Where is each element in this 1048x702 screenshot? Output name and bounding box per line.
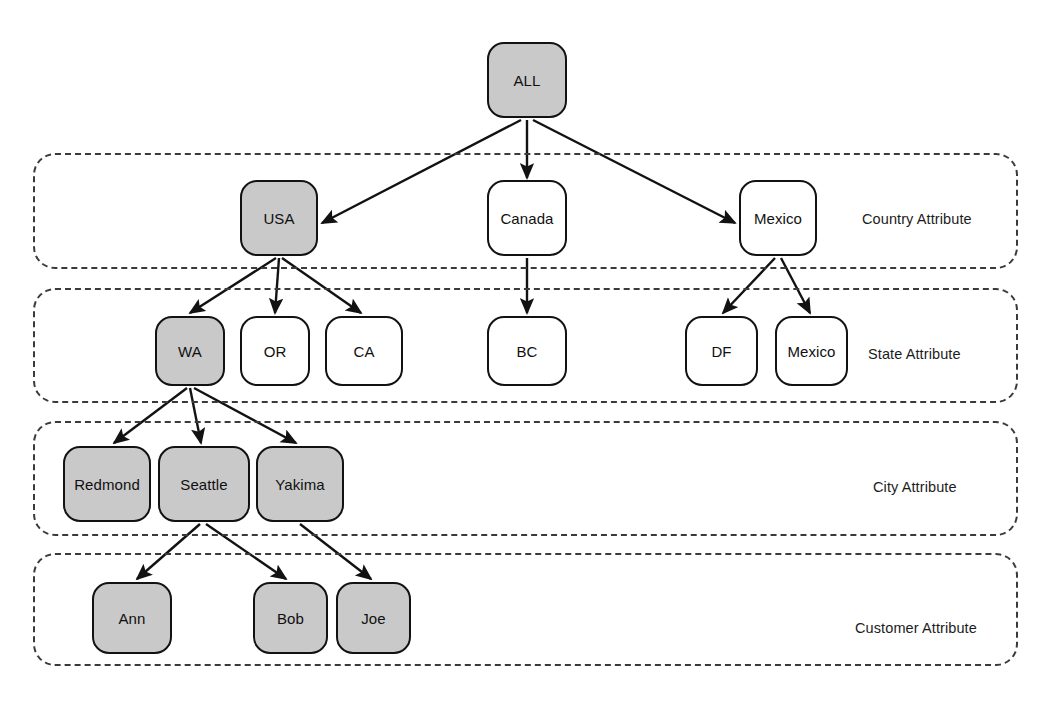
- tier-label-state: State Attribute: [868, 346, 961, 362]
- node-mexico-state[interactable]: Mexico: [775, 316, 848, 386]
- tier-label-city: City Attribute: [873, 479, 957, 495]
- node-mexico[interactable]: Mexico: [739, 180, 817, 256]
- tier-label-country: Country Attribute: [862, 211, 972, 227]
- node-bc[interactable]: BC: [487, 316, 567, 386]
- node-joe[interactable]: Joe: [336, 582, 411, 654]
- node-canada[interactable]: Canada: [487, 180, 567, 256]
- node-wa[interactable]: WA: [155, 316, 225, 386]
- node-df[interactable]: DF: [685, 316, 758, 386]
- hierarchy-diagram: Country AttributeState AttributeCity Att…: [0, 0, 1048, 702]
- node-redmond[interactable]: Redmond: [63, 446, 151, 522]
- node-ca[interactable]: CA: [325, 316, 403, 386]
- node-yakima[interactable]: Yakima: [256, 446, 344, 522]
- node-or[interactable]: OR: [240, 316, 310, 386]
- node-bob[interactable]: Bob: [253, 582, 328, 654]
- node-all[interactable]: ALL: [487, 42, 567, 118]
- tier-label-customer: Customer Attribute: [855, 620, 977, 636]
- tier-group-customer: [33, 553, 1018, 666]
- node-usa[interactable]: USA: [240, 180, 318, 256]
- node-ann[interactable]: Ann: [92, 582, 172, 654]
- node-seattle[interactable]: Seattle: [158, 446, 250, 522]
